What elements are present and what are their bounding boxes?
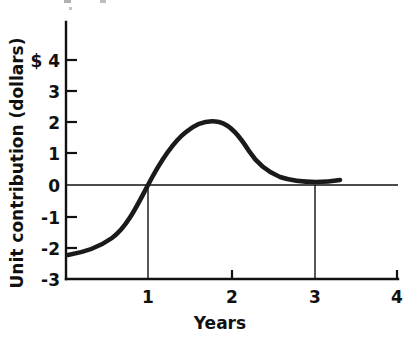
x-axis-tick-labels: 1 2 3 4 [142, 287, 403, 307]
x-tick-label-4: 4 [391, 287, 403, 307]
y-axis-ticks [66, 60, 77, 248]
y-tick-label-4: $ 4 [30, 51, 60, 71]
chart-container: $ 4 3 2 1 0 -1 -2 -3 1 2 3 4 Years Unit … [0, 0, 408, 340]
y-axis-tick-labels: $ 4 3 2 1 0 -1 -2 -3 [30, 51, 60, 290]
x-tick-label-1: 1 [142, 287, 154, 307]
unit-contribution-line-chart: $ 4 3 2 1 0 -1 -2 -3 1 2 3 4 Years Unit … [0, 0, 408, 340]
y-tick-label-0: 0 [48, 176, 60, 196]
y-tick-label-2: 2 [48, 113, 60, 133]
y-tick-label-1: 1 [48, 144, 60, 164]
y-tick-label-3: 3 [48, 82, 60, 102]
y-axis-title: Unit contribution (dollars) [7, 38, 27, 289]
unit-contribution-curve [68, 121, 340, 255]
y-tick-label-minus-3: -3 [41, 270, 60, 290]
y-tick-label-minus-1: -1 [41, 208, 60, 228]
y-tick-label-minus-2: -2 [41, 239, 60, 259]
x-tick-label-2: 2 [226, 287, 238, 307]
x-tick-label-3: 3 [309, 287, 321, 307]
cropped-text-artifact [64, 0, 106, 10]
x-axis-title: Years [193, 313, 246, 333]
